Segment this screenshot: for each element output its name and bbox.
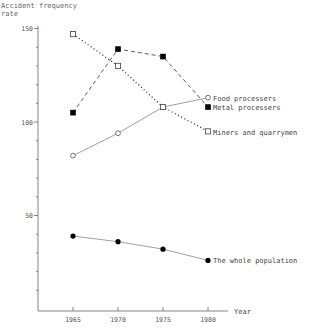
y-axis-title-line1: Accident frequency	[1, 2, 77, 10]
marker-miners-and-quarrymen-1965	[70, 32, 75, 37]
series-label-miners-and-quarrymen: Miners and quarrymen	[213, 129, 297, 137]
series-line-food-processers	[73, 98, 208, 156]
marker-whole-population-1975	[160, 247, 165, 252]
x-tick-label-1975: 1975	[155, 316, 171, 324]
accident-frequency-chart: Accident frequency rate 150 100 50 1965 …	[0, 0, 309, 329]
series-line-whole-population	[73, 236, 208, 260]
series-label-food-processers: Food processers	[213, 95, 276, 103]
x-tick-label-1980: 1980	[200, 316, 216, 324]
marker-whole-population-1970	[115, 239, 120, 244]
series-line-metal-processers	[73, 49, 208, 113]
marker-metal-processers-1965	[70, 110, 76, 116]
marker-food-processers-1970	[116, 131, 121, 136]
y-tick-label-50: 50	[25, 212, 33, 220]
y-tick-label-150: 150	[21, 25, 33, 33]
marker-food-processers-1980	[206, 95, 211, 100]
x-axis-title: Year	[234, 308, 251, 316]
marker-whole-population-1980	[205, 258, 210, 263]
marker-miners-and-quarrymen-1970	[115, 63, 120, 68]
y-tick-label-100: 100	[21, 119, 33, 127]
marker-metal-processers-1975	[160, 54, 166, 60]
marker-miners-and-quarrymen-1975	[160, 104, 165, 109]
marker-whole-population-1965	[70, 233, 75, 238]
axes	[38, 26, 228, 311]
x-tick-label-1965: 1965	[65, 316, 81, 324]
x-tick-label-1970: 1970	[110, 316, 126, 324]
marker-miners-and-quarrymen-1980	[205, 129, 210, 134]
series-label-metal-processers: Metal processers	[213, 104, 280, 112]
y-ticks	[34, 29, 38, 291]
x-ticks	[73, 307, 208, 311]
series-label-whole-population: The whole population	[213, 257, 297, 265]
y-axis-title-line2: rate	[1, 10, 18, 18]
series-line-miners-and-quarrymen	[73, 34, 208, 131]
marker-food-processers-1965	[71, 153, 76, 158]
marker-metal-processers-1970	[115, 46, 121, 52]
marker-metal-processers-1980	[205, 104, 211, 110]
